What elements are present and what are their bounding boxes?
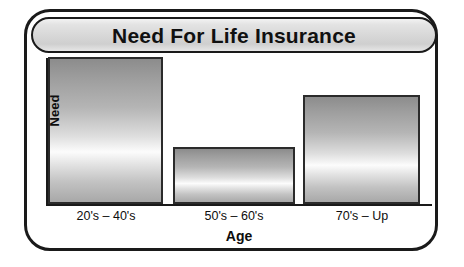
x-axis-tick-labels: 20's – 40's 50's – 60's 70's – Up [46,209,432,225]
page-title: Need For Life Insurance [112,25,356,46]
y-axis-title: Need [48,81,61,141]
x-tick-label-0: 20's – 40's [46,209,166,223]
x-tick-label-1: 50's – 60's [173,209,295,223]
bar-50s-60s [173,147,295,204]
bar-70s-up [303,95,420,204]
chart-title-banner: Need For Life Insurance [31,17,437,53]
bar-20s-40s [48,57,163,204]
x-axis-title: Age [46,229,432,243]
life-insurance-need-bar-chart: Need For Life Insurance Need 20's – 40's… [0,0,464,267]
x-tick-label-2: 70's – Up [301,209,423,223]
plot-area [46,58,432,206]
x-axis-line [46,204,432,206]
